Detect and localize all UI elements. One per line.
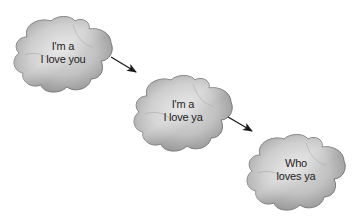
arrow-2-to-3-icon [228,117,252,131]
diagram-canvas: I'm a I love you I'm a I love ya Who lov… [0,0,360,222]
arrow-1-to-2-icon [111,57,136,72]
arrows-layer [0,0,360,222]
